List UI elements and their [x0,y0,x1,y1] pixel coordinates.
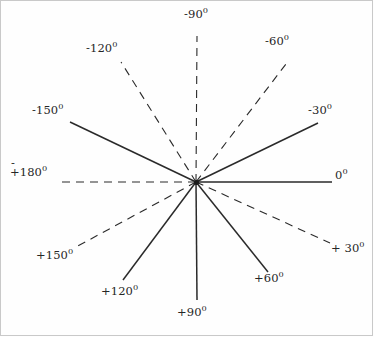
ray-plusminus-90 [196,182,197,300]
label-minus-90: -900 [184,8,208,20]
label-plus-minus-180: - +1800 [10,158,47,178]
ray-minus-30 [196,123,318,182]
label-plus-60: +600 [254,272,284,284]
ray-plusminus-60 [196,182,268,272]
label-minus-150: -1500 [32,104,64,116]
label-plus-30: + 300 [331,242,365,254]
label-minus-120: -1200 [86,42,118,54]
ray-plusminus-30 [196,182,330,243]
ray-minus-90 [196,36,197,182]
label-plus-150: +1500 [36,249,73,261]
label-zero: 00 [335,169,348,181]
ray-minus-60 [196,60,289,182]
label-plus-120: +1200 [101,285,138,297]
ray-lines [56,36,332,300]
label-minus-60: -600 [265,35,289,47]
ray-plusminus-150 [76,182,196,247]
ray-group [0,0,374,337]
label-plus-90: +900 [177,306,207,318]
ray-plusminus-120 [123,182,196,280]
angle-reference-diagram: -900 -600 -1200 -1500 -300 00 - +1800 +1… [0,0,374,337]
label-minus-30: -300 [308,104,332,116]
center-point [194,180,199,185]
